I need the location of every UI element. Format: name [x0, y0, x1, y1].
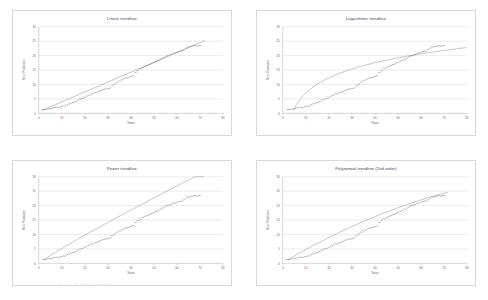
- x-tick-label: 30: [106, 266, 110, 270]
- scatter-series: [42, 195, 201, 260]
- y-tick-label: 15: [276, 68, 280, 72]
- x-tick-label: 70: [442, 116, 446, 120]
- trendline: [293, 48, 466, 111]
- x-tick-label: 60: [175, 266, 179, 270]
- chart-plot-area: Polynomial trendline (2nd order)05101520…: [256, 160, 476, 286]
- x-axis-label: Years: [371, 121, 379, 125]
- y-tick-label: 25: [32, 39, 36, 43]
- chart-plot-area: Linear trendline051015202530010203040506…: [12, 10, 232, 136]
- y-axis-label: New Positions: [266, 210, 270, 230]
- x-tick-label: 20: [327, 116, 331, 120]
- chart-panel: Polynomial trendline (2nd order)05101520…: [244, 150, 488, 300]
- x-axis-label: Years: [127, 271, 135, 275]
- x-tick-label: 10: [304, 266, 308, 270]
- chart-panel: Power trendline0510152025300102030405060…: [0, 150, 244, 300]
- trendline: [43, 177, 203, 260]
- x-tick-label: 20: [327, 266, 331, 270]
- y-tick-label: 30: [32, 25, 36, 29]
- chart-grid: Linear trendline051015202530010203040506…: [0, 0, 488, 300]
- chart-panel: Logarithmic trendline0510152025300102030…: [244, 0, 488, 150]
- chart-plot-area: Logarithmic trendline0510152025300102030…: [256, 10, 476, 136]
- y-tick-label: 5: [34, 247, 36, 251]
- x-tick-label: 80: [465, 116, 469, 120]
- x-tick-label: 70: [198, 116, 202, 120]
- y-tick-label: 0: [278, 262, 280, 266]
- y-tick-label: 0: [34, 112, 36, 116]
- y-tick-label: 5: [34, 97, 36, 101]
- x-tick-label: 20: [83, 116, 87, 120]
- x-tick-label: 50: [396, 116, 400, 120]
- y-tick-label: 20: [276, 54, 280, 58]
- x-tick-label: 0: [38, 116, 40, 120]
- x-tick-label: 10: [60, 266, 64, 270]
- trendline: [41, 41, 205, 111]
- x-tick-label: 30: [350, 116, 354, 120]
- figure-caption: Figure 1. Trendline comparison: [58, 283, 111, 287]
- x-axis-label: Years: [371, 271, 379, 275]
- y-tick-label: 5: [278, 247, 280, 251]
- y-tick-label: 25: [276, 189, 280, 193]
- y-tick-label: 20: [32, 54, 36, 58]
- x-tick-label: 70: [442, 266, 446, 270]
- x-tick-label: 70: [198, 266, 202, 270]
- y-tick-label: 5: [278, 97, 280, 101]
- x-tick-label: 30: [350, 266, 354, 270]
- chart-canvas: 05101520253001020304050607080YearsNew Po…: [13, 11, 231, 135]
- x-tick-label: 10: [304, 116, 308, 120]
- x-tick-label: 60: [175, 116, 179, 120]
- y-axis-label: New Positions: [22, 60, 26, 80]
- x-tick-label: 50: [396, 266, 400, 270]
- scatter-series: [286, 195, 445, 260]
- x-tick-label: 40: [129, 116, 133, 120]
- x-tick-label: 80: [221, 266, 225, 270]
- y-tick-label: 15: [32, 218, 36, 222]
- y-tick-label: 30: [32, 175, 36, 179]
- y-tick-label: 0: [34, 262, 36, 266]
- y-tick-label: 25: [276, 39, 280, 43]
- x-tick-label: 40: [129, 266, 133, 270]
- trendline: [287, 192, 447, 260]
- chart-canvas: 05101520253001020304050607080YearsNew Po…: [13, 161, 231, 285]
- y-tick-label: 25: [32, 189, 36, 193]
- y-tick-label: 20: [32, 204, 36, 208]
- x-tick-label: 30: [106, 116, 110, 120]
- y-tick-label: 10: [276, 83, 280, 87]
- y-tick-label: 30: [276, 25, 280, 29]
- x-tick-label: 0: [282, 266, 284, 270]
- y-tick-label: 10: [32, 83, 36, 87]
- y-tick-label: 15: [276, 218, 280, 222]
- y-tick-label: 20: [276, 204, 280, 208]
- chart-plot-area: Power trendline0510152025300102030405060…: [12, 160, 232, 286]
- x-tick-label: 80: [221, 116, 225, 120]
- x-tick-label: 50: [152, 266, 156, 270]
- x-tick-label: 0: [38, 266, 40, 270]
- x-tick-label: 50: [152, 116, 156, 120]
- x-axis-label: Years: [127, 121, 135, 125]
- y-axis-label: New Positions: [266, 60, 270, 80]
- chart-canvas: 05101520253001020304050607080YearsNew Po…: [257, 11, 475, 135]
- x-tick-label: 60: [419, 266, 423, 270]
- y-tick-label: 10: [32, 233, 36, 237]
- chart-canvas: 05101520253001020304050607080YearsNew Po…: [257, 161, 475, 285]
- y-axis-label: New Positions: [22, 210, 26, 230]
- scatter-series: [42, 45, 201, 110]
- x-tick-label: 40: [373, 266, 377, 270]
- y-tick-label: 15: [32, 68, 36, 72]
- chart-panel: Linear trendline051015202530010203040506…: [0, 0, 244, 150]
- y-tick-label: 30: [276, 175, 280, 179]
- x-tick-label: 40: [373, 116, 377, 120]
- x-tick-label: 10: [60, 116, 64, 120]
- scatter-series: [286, 45, 445, 110]
- y-tick-label: 0: [278, 112, 280, 116]
- x-tick-label: 60: [419, 116, 423, 120]
- x-tick-label: 80: [465, 266, 469, 270]
- x-tick-label: 20: [83, 266, 87, 270]
- x-tick-label: 0: [282, 116, 284, 120]
- y-tick-label: 10: [276, 233, 280, 237]
